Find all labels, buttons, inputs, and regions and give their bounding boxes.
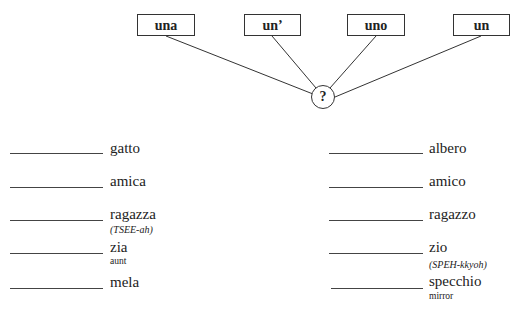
answer-blank-gatto[interactable] — [10, 153, 103, 154]
word-gatto: gatto — [110, 140, 140, 156]
word-mela: mela — [110, 274, 139, 290]
word-amica: amica — [110, 173, 146, 189]
answer-blank-zio[interactable] — [329, 253, 423, 254]
answer-blank-amica[interactable] — [10, 187, 103, 188]
word-ragazza: ragazza — [110, 206, 156, 222]
gloss-aunt: aunt — [110, 256, 126, 266]
article-box-uno: uno — [347, 14, 405, 36]
pronunciation-tsee-ah: (TSEE-ah) — [110, 224, 153, 235]
word-specchio: specchio — [429, 273, 481, 289]
word-zio: zio — [429, 239, 447, 255]
word-amico: amico — [429, 173, 466, 189]
word-ragazzo: ragazzo — [429, 206, 476, 222]
answer-blank-zia[interactable] — [10, 253, 103, 254]
answer-blank-mela[interactable] — [10, 288, 103, 289]
answer-blank-ragazza[interactable] — [10, 220, 103, 221]
answer-blank-albero[interactable] — [329, 153, 423, 154]
question-circle: ? — [311, 85, 335, 109]
word-albero: albero — [429, 140, 466, 156]
pronunciation-speh-kkyoh: (SPEH-kkyoh) — [429, 259, 487, 270]
answer-blank-specchio[interactable] — [331, 288, 423, 289]
article-box-una: una — [137, 14, 195, 36]
article-box-un-apostrophe: un’ — [244, 14, 301, 36]
answer-blank-amico[interactable] — [329, 187, 423, 188]
word-zia: zia — [110, 239, 127, 255]
answer-blank-ragazzo[interactable] — [329, 220, 423, 221]
gloss-mirror: mirror — [429, 291, 453, 301]
article-box-un: un — [453, 14, 510, 36]
